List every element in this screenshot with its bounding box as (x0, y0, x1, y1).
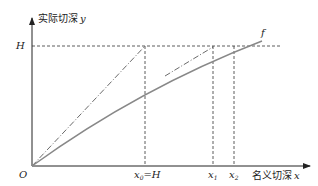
h-label: H (15, 40, 25, 51)
x2-label: x2 (229, 169, 239, 181)
curve-f-label: f (260, 27, 267, 38)
origin-label: O (19, 169, 27, 180)
secant-dashdot-line (165, 47, 213, 76)
curve-f (32, 41, 262, 166)
ideal-dashdot-line (32, 46, 145, 166)
y-axis-label: 实际切深y (38, 12, 86, 24)
cutting-depth-diagram: 实际切深y H O f x0=H x1 x2 名义切深x (0, 0, 318, 186)
x0-label: x0=H (134, 169, 161, 181)
x1-label: x1 (208, 169, 217, 181)
x-axis-label: 名义切深x (252, 169, 300, 181)
